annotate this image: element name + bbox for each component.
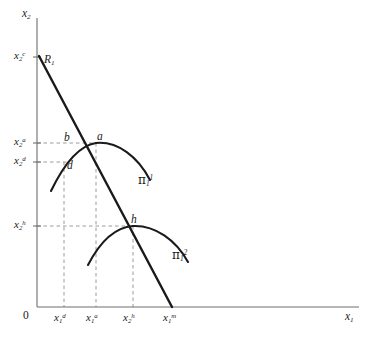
- y-tick-x2c: x2c: [14, 50, 25, 61]
- point-label-a: a: [97, 131, 103, 143]
- point-label-b: b: [64, 132, 70, 144]
- axis-lines: [37, 18, 359, 307]
- y-axis-label: x2: [22, 8, 31, 20]
- y-tick-x2h: x2h: [14, 219, 26, 230]
- diagram-svg: [0, 0, 380, 339]
- dashed-guides: [37, 143, 133, 307]
- x-tick-x2h: x2h: [123, 312, 135, 323]
- point-label-h: h: [131, 214, 137, 226]
- isoprofit-curve-1: [51, 143, 150, 191]
- y-tick-x2d: x2d: [14, 155, 26, 166]
- reaction-line-label: R1: [44, 54, 55, 66]
- figure-canvas: x2 x1 0 x2c x2a x2d x2h x1d x1a x2h x1m …: [0, 0, 380, 339]
- curve-label-pi1-1: π11: [138, 174, 153, 186]
- origin-label: 0: [23, 310, 29, 322]
- x-axis-label: x1: [345, 311, 354, 323]
- x-tick-x1m: x1m: [163, 312, 176, 323]
- x-tick-x1a: x1a: [86, 312, 98, 323]
- y-tick-x2a: x2a: [14, 136, 26, 147]
- x-tick-x1d: x1d: [54, 312, 66, 323]
- point-label-d: d: [67, 160, 73, 172]
- curve-label-pi1-2: π12: [172, 249, 187, 261]
